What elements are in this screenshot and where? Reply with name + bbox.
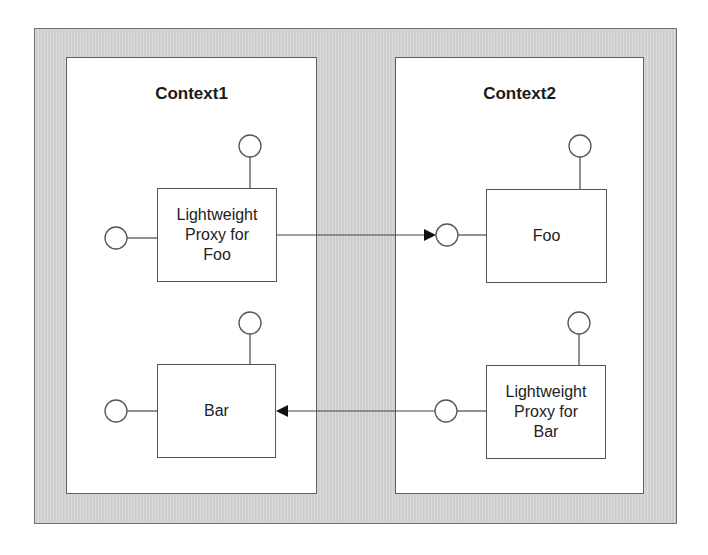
- component-label-line: Foo: [533, 226, 561, 246]
- component-label-line: Lightweight: [177, 205, 258, 225]
- component-foo: Foo: [486, 189, 607, 283]
- connection-proxyfoo-to-foo: [276, 229, 436, 241]
- arrowhead-right-icon: [424, 229, 436, 241]
- component-label-line: Bar: [204, 401, 229, 421]
- proxy-bar-left-interface-icon: [435, 400, 457, 422]
- foo-left-interface-icon: [436, 224, 458, 246]
- arrowhead-left-icon: [276, 405, 288, 417]
- component-label-line: Foo: [177, 245, 258, 265]
- component-bar: Bar: [157, 364, 276, 458]
- component-label-line: Lightweight: [506, 382, 587, 402]
- proxy-foo-top-interface-icon: [239, 135, 261, 157]
- foo-top-interface-icon: [569, 135, 591, 157]
- component-proxy-for-bar: Lightweight Proxy for Bar: [486, 365, 606, 459]
- component-label-line: Bar: [506, 422, 587, 442]
- component-proxy-for-foo: Lightweight Proxy for Foo: [157, 188, 277, 282]
- connection-proxybar-to-bar: [276, 405, 435, 417]
- component-label-line: Proxy for: [506, 402, 587, 422]
- bar-top-interface-icon: [239, 312, 261, 334]
- bar-left-interface-icon: [105, 400, 127, 422]
- component-label-line: Proxy for: [177, 225, 258, 245]
- proxy-bar-top-interface-icon: [568, 312, 590, 334]
- proxy-foo-left-interface-icon: [105, 227, 127, 249]
